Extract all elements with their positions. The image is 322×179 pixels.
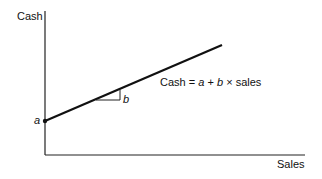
- equation-plus: +: [207, 76, 213, 88]
- intercept-label: a: [34, 115, 40, 126]
- equation-rhs: sales: [236, 76, 262, 88]
- equation-equals: =: [189, 76, 195, 88]
- equation: Cash = a + b × sales: [160, 77, 261, 88]
- equation-b: b: [217, 76, 223, 88]
- x-axis-label: Sales: [277, 159, 305, 170]
- slope-label: b: [123, 94, 129, 105]
- intercept-point: [43, 119, 47, 123]
- y-axis-label: Cash: [17, 11, 43, 22]
- equation-a: a: [198, 76, 204, 88]
- diagram-canvas: [0, 0, 322, 179]
- equation-lhs: Cash: [160, 76, 186, 88]
- equation-times: ×: [226, 76, 232, 88]
